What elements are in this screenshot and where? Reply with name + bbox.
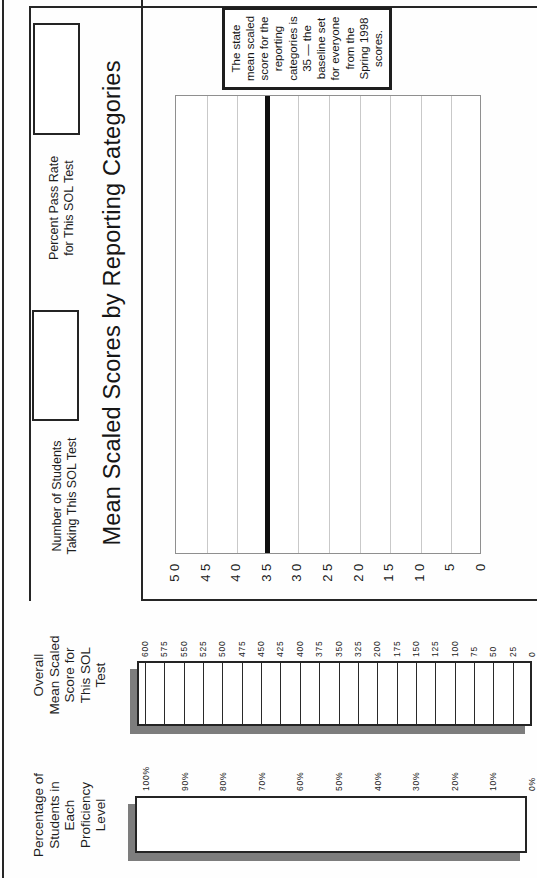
percent-tick-label: 0% xyxy=(527,777,537,791)
text-line: reporting xyxy=(271,10,285,87)
ladder-cell-divider xyxy=(474,663,475,724)
text-line: Overall xyxy=(31,620,47,730)
ladder-cell-divider xyxy=(222,663,223,724)
ladder-cell-divider xyxy=(377,663,378,724)
text-line: mean scaled xyxy=(243,10,257,87)
score-tick-label: 500 xyxy=(217,641,227,657)
state-mean-baseline xyxy=(265,96,270,553)
ladder-cell-divider xyxy=(358,663,359,724)
score-tick-label: 600 xyxy=(140,641,150,657)
text-line: Level xyxy=(93,760,109,870)
score-tick-label: 150 xyxy=(411,641,421,657)
ladder-cell-divider xyxy=(300,663,301,724)
score-tick-label: 400 xyxy=(295,641,305,657)
gridline xyxy=(298,96,299,553)
score-tick-label: 550 xyxy=(179,641,189,657)
text-line: The state xyxy=(229,10,243,87)
y-axis-tick-label: 10 xyxy=(412,560,428,616)
y-axis-tick-label: 40 xyxy=(228,560,244,616)
text-line: Taking This SOL Test xyxy=(65,427,80,565)
ladder-cell-divider xyxy=(145,663,146,724)
ladder-cell-divider xyxy=(397,663,398,724)
y-axis-tick-label: 30 xyxy=(289,560,305,616)
percent-tick-label: 50% xyxy=(334,772,344,791)
ladder-cell-divider xyxy=(513,663,514,724)
gridline xyxy=(329,96,330,553)
score-tick-label: 375 xyxy=(314,641,324,657)
chart-section-rule xyxy=(141,0,143,601)
score-tick-label: 350 xyxy=(334,641,344,657)
chart-title: Mean Scaled Scores by Reporting Categori… xyxy=(99,5,126,601)
pass-rate-box xyxy=(33,23,80,135)
gridline xyxy=(360,96,361,553)
text-line: 35 — the xyxy=(300,10,314,87)
score-tick-label: 425 xyxy=(275,641,285,657)
proficiency-level-bar xyxy=(135,796,527,853)
score-tick-label: 175 xyxy=(392,641,402,657)
percent-tick-label: 20% xyxy=(450,772,460,791)
score-tick-label: 25 xyxy=(508,646,518,657)
text-line: Students in xyxy=(47,760,63,870)
gridline xyxy=(421,96,422,553)
percent-tick-label: 10% xyxy=(488,772,498,791)
text-line: Percent Pass Rate xyxy=(47,139,62,277)
percent-tick-label: 100% xyxy=(141,766,151,791)
score-tick-label: 100 xyxy=(450,641,460,657)
percent-tick-label: 80% xyxy=(218,772,228,791)
y-axis-tick-label: 20 xyxy=(351,560,367,616)
score-tick-label: 325 xyxy=(353,641,363,657)
text-line: for This SOL Test xyxy=(62,139,77,277)
ladder-cell-divider xyxy=(184,663,185,724)
ladder-cell-divider xyxy=(493,663,494,724)
score-tick-label: 200 xyxy=(372,641,382,657)
pass-rate-label: Percent Pass Ratefor This SOL Test xyxy=(47,139,76,277)
text-line: scores. xyxy=(371,10,385,87)
overall-score-header: OverallMean ScaledScore forThis SOLTest xyxy=(31,620,109,730)
gridline xyxy=(451,96,452,553)
ladder-cell-divider xyxy=(435,663,436,724)
scanned-report-page: Percentage ofStudents inEachProficiencyL… xyxy=(0,0,537,878)
score-tick-label: 450 xyxy=(256,641,266,657)
text-line: Mean Scaled xyxy=(47,620,63,730)
score-tick-label: 50 xyxy=(488,646,498,657)
ladder-cell-divider xyxy=(203,663,204,724)
ladder-cell-divider xyxy=(164,663,165,724)
ladder-cell-divider xyxy=(339,663,340,724)
report-landscape-canvas: Percentage ofStudents inEachProficiencyL… xyxy=(0,0,537,878)
score-tick-label: 575 xyxy=(159,641,169,657)
proficiency-header: Percentage ofStudents inEachProficiencyL… xyxy=(31,760,109,870)
text-line: Test xyxy=(93,620,109,730)
ladder-cell-divider xyxy=(280,663,281,724)
gridline xyxy=(207,96,208,553)
score-tick-label: 125 xyxy=(430,641,440,657)
y-axis-tick-label: 50 xyxy=(167,560,183,616)
percent-tick-label: 70% xyxy=(257,772,267,791)
score-tick-label: 75 xyxy=(469,646,479,657)
gridline xyxy=(237,96,238,553)
text-line: score for the xyxy=(257,10,271,87)
gridline xyxy=(390,96,391,553)
y-axis-tick-label: 25 xyxy=(320,560,336,616)
page-edge-rule xyxy=(2,0,4,878)
percent-tick-label: 30% xyxy=(411,772,421,791)
baseline-note-box: The statemean scaledscore for thereporti… xyxy=(222,7,392,90)
percent-tick-label: 60% xyxy=(295,772,305,791)
y-axis-tick-label: 45 xyxy=(198,560,214,616)
text-line: Percentage of xyxy=(31,760,47,870)
text-line: baseline set xyxy=(314,10,328,87)
text-line: Score for xyxy=(62,620,78,730)
header-rule xyxy=(29,6,31,601)
text-line: Number of Students xyxy=(50,427,65,565)
y-axis-tick-label: 15 xyxy=(381,560,397,616)
y-axis-tick-label: 35 xyxy=(259,560,275,616)
y-axis-tick-label: 5 xyxy=(442,560,458,616)
text-line: This SOL xyxy=(78,620,94,730)
text-line: Spring 1998 xyxy=(357,10,371,87)
score-tick-label: 525 xyxy=(198,641,208,657)
plot-area xyxy=(175,95,481,554)
score-tick-label: 475 xyxy=(237,641,247,657)
text-line: for everyone xyxy=(328,10,342,87)
ladder-cell-divider xyxy=(319,663,320,724)
ladder-cell-divider xyxy=(416,663,417,724)
scaled-score-ladder xyxy=(137,661,532,726)
